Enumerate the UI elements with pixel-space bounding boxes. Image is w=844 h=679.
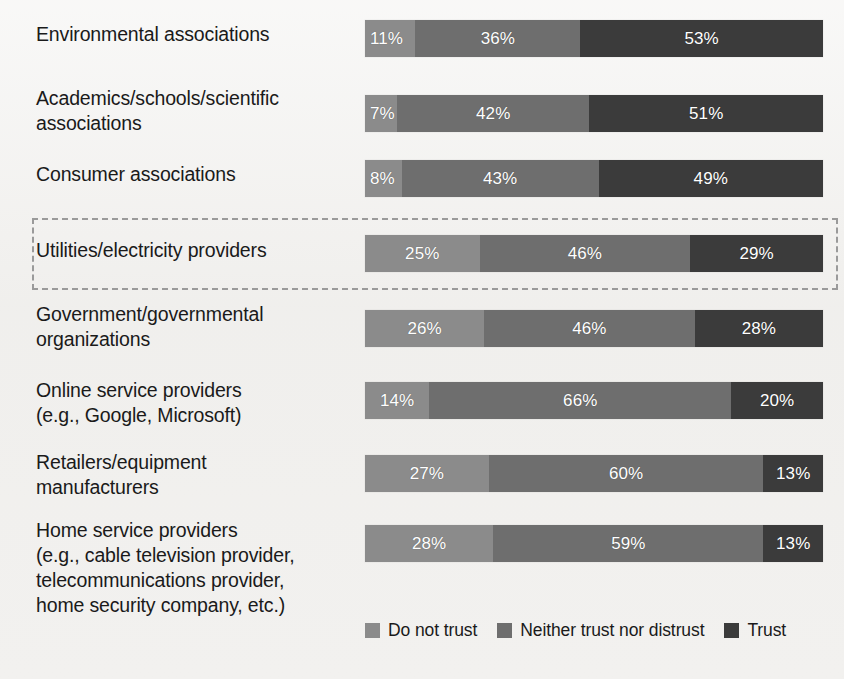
category-label: Consumer associations (36, 162, 352, 187)
bar-segment: 13% (763, 525, 823, 562)
legend-swatch-icon (724, 623, 739, 638)
category-label: Utilities/electricity providers (36, 238, 352, 263)
bar-segment: 60% (489, 455, 764, 492)
legend-label: Do not trust (388, 620, 477, 641)
legend-swatch-icon (497, 623, 512, 638)
stacked-bar: 14%66%20% (365, 382, 823, 419)
bar-segment: 53% (580, 20, 823, 57)
stacked-bar: 27%60%13% (365, 455, 823, 492)
stacked-bar: 26%46%28% (365, 310, 823, 347)
bar-segment: 14% (365, 382, 429, 419)
legend-swatch-icon (365, 623, 380, 638)
bar-segment: 51% (589, 95, 823, 132)
bar-segment: 25% (365, 235, 480, 272)
stacked-bar-chart: Environmental associations11%36%53%Acade… (0, 0, 844, 679)
stacked-bar: 7%42%51% (365, 95, 823, 132)
bar-segment: 36% (415, 20, 580, 57)
category-label: Online service providers (e.g., Google, … (36, 378, 352, 428)
stacked-bar: 8%43%49% (365, 160, 823, 197)
bar-segment: 46% (480, 235, 691, 272)
legend-item: Do not trust (365, 620, 477, 641)
legend-label: Trust (747, 620, 786, 641)
bar-segment: 8% (365, 160, 402, 197)
category-label: Environmental associations (36, 22, 352, 47)
category-label: Government/governmental organizations (36, 302, 352, 352)
bar-segment: 20% (731, 382, 823, 419)
bar-segment: 11% (365, 20, 415, 57)
bar-segment: 28% (365, 525, 493, 562)
category-label: Home service providers (e.g., cable tele… (36, 518, 352, 618)
legend-item: Trust (724, 620, 786, 641)
legend-label: Neither trust nor distrust (520, 620, 704, 641)
bar-segment: 28% (695, 310, 823, 347)
stacked-bar: 25%46%29% (365, 235, 823, 272)
chart-legend: Do not trustNeither trust nor distrustTr… (365, 620, 786, 641)
bar-segment: 43% (402, 160, 599, 197)
bar-segment: 29% (690, 235, 823, 272)
bar-segment: 27% (365, 455, 489, 492)
bar-segment: 59% (493, 525, 763, 562)
category-label: Academics/schools/scientific association… (36, 86, 352, 136)
category-label: Retailers/equipment manufacturers (36, 450, 352, 500)
bar-segment: 26% (365, 310, 484, 347)
bar-segment: 49% (599, 160, 823, 197)
bar-segment: 42% (397, 95, 589, 132)
bar-segment: 46% (484, 310, 695, 347)
bar-segment: 13% (763, 455, 823, 492)
stacked-bar: 11%36%53% (365, 20, 823, 57)
stacked-bar: 28%59%13% (365, 525, 823, 562)
legend-item: Neither trust nor distrust (497, 620, 704, 641)
bar-segment: 7% (365, 95, 397, 132)
bar-segment: 66% (429, 382, 731, 419)
